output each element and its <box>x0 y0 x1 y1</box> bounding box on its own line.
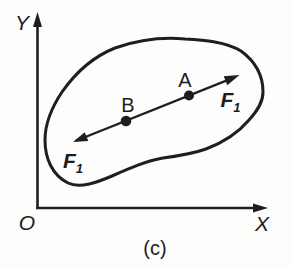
x-axis-label: X <box>254 212 270 235</box>
point-b-label: B <box>121 94 134 116</box>
point-a-label: A <box>178 69 192 91</box>
force-subscript-lower: 1 <box>76 161 83 176</box>
y-axis-label: Y <box>15 11 31 34</box>
point-a-dot <box>184 91 194 101</box>
free-body-diagram: A B F1 F1 Y X O (c) <box>0 0 291 268</box>
physics-figure: A B F1 F1 Y X O (c) <box>0 0 291 268</box>
origin-label: O <box>19 211 35 234</box>
force-subscript-upper: 1 <box>233 100 240 115</box>
point-b-dot <box>121 116 132 127</box>
figure-caption: (c) <box>143 237 166 259</box>
